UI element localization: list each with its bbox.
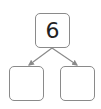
whole-box: 6 <box>35 13 70 48</box>
part-box-left[interactable] <box>9 66 44 101</box>
arrow-left <box>29 48 52 65</box>
part-box-right[interactable] <box>60 66 95 101</box>
whole-value: 6 <box>46 18 60 43</box>
arrow-right <box>52 48 77 65</box>
